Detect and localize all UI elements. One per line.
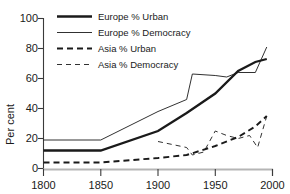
legend-label-asia-urban: Asia % Urban bbox=[98, 43, 156, 54]
y-tick-label-80: 80 bbox=[26, 42, 38, 54]
x-tick-label-1800: 1800 bbox=[31, 179, 55, 191]
y-tick-label-60: 60 bbox=[26, 72, 38, 84]
legend: Europe % Urban Europe % Democracy Asia %… bbox=[57, 11, 191, 70]
legend-label-asia-democracy: Asia % Democracy bbox=[98, 59, 178, 70]
y-tick-label-20: 20 bbox=[26, 132, 38, 144]
y-tick-label-40: 40 bbox=[26, 102, 38, 114]
line-chart: Per cent 100 80 60 40 20 0 1800 1850 190… bbox=[0, 0, 290, 194]
y-axis-title: Per cent bbox=[4, 104, 16, 145]
legend-label-europe-urban: Europe % Urban bbox=[98, 11, 168, 22]
x-tick-label-1900: 1900 bbox=[146, 179, 170, 191]
series-asia-urban bbox=[44, 116, 267, 163]
y-tick-label-100: 100 bbox=[20, 12, 38, 24]
x-tick-label-1850: 1850 bbox=[89, 179, 113, 191]
legend-label-europe-democracy: Europe % Democracy bbox=[98, 27, 191, 38]
x-tick-label-1950: 1950 bbox=[203, 179, 227, 191]
y-tick-label-0: 0 bbox=[32, 162, 38, 174]
chart-container: Per cent 100 80 60 40 20 0 1800 1850 190… bbox=[0, 0, 290, 194]
x-tick-label-2000: 2000 bbox=[260, 179, 284, 191]
